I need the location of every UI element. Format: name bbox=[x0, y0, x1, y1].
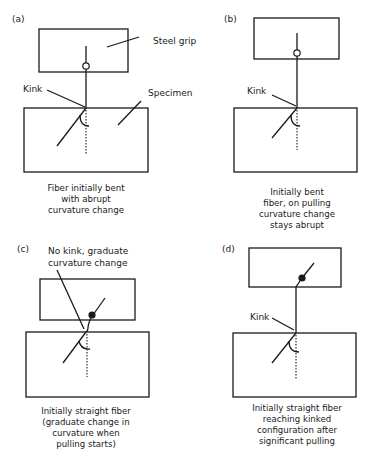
kink-label: Kink bbox=[247, 86, 267, 96]
kink-pointer bbox=[47, 90, 85, 107]
fiber-embedded-in-grip bbox=[93, 298, 105, 315]
steel-grip bbox=[40, 279, 135, 320]
svg-text:stays abrupt: stays abrupt bbox=[270, 220, 325, 230]
specimen-block bbox=[234, 108, 357, 172]
panel-tag: (c) bbox=[17, 244, 29, 254]
svg-text:curvature change: curvature change bbox=[48, 205, 124, 215]
angle-arc bbox=[79, 341, 90, 349]
panel-tag: (d) bbox=[222, 244, 235, 254]
caption: Initially straight fiber reaching kinked… bbox=[252, 403, 342, 446]
svg-text:Initially bent: Initially bent bbox=[270, 187, 324, 197]
svg-text:configuration after: configuration after bbox=[257, 425, 338, 435]
fiber-embedded-inclined bbox=[272, 333, 296, 363]
panel-tag: (a) bbox=[12, 14, 25, 24]
svg-text:curvature change: curvature change bbox=[259, 209, 335, 219]
kink-label: Kink bbox=[250, 312, 270, 322]
panel-tag: (b) bbox=[224, 14, 237, 24]
filled-grip-point bbox=[298, 274, 305, 281]
steel-grip bbox=[249, 248, 341, 287]
panel-c: (c) No kink, graduate curvature change I… bbox=[17, 244, 149, 449]
svg-text:reaching kinked: reaching kinked bbox=[263, 414, 331, 424]
svg-text:(graduate change in: (graduate change in bbox=[42, 417, 129, 427]
svg-text:with abrupt: with abrupt bbox=[61, 194, 111, 204]
fiber-pullout-diagram: (a) Kink Steel grip Specimen Fiber initi… bbox=[0, 0, 379, 467]
caption: Fiber initially bent with abrupt curvatu… bbox=[47, 183, 125, 215]
open-grip-point bbox=[294, 50, 300, 56]
angle-arc bbox=[291, 115, 300, 126]
panel-d: (d) Kink Initially straight fiber reachi… bbox=[222, 244, 356, 446]
kink-pointer bbox=[272, 95, 296, 106]
svg-text:curvature when: curvature when bbox=[52, 428, 119, 438]
no-kink-label: No kink, graduate curvature change bbox=[48, 246, 129, 268]
specimen-block bbox=[233, 333, 356, 397]
svg-text:No kink, graduate: No kink, graduate bbox=[48, 246, 129, 256]
panel-b: (b) Kink Initially bent fiber, on pullin… bbox=[224, 14, 357, 230]
svg-text:pulling starts): pulling starts) bbox=[56, 439, 116, 449]
specimen-pointer bbox=[118, 101, 141, 125]
angle-arc bbox=[289, 341, 299, 352]
svg-text:Fiber initially bent: Fiber initially bent bbox=[47, 183, 125, 193]
filled-grip-point bbox=[88, 311, 95, 318]
grip-pointer bbox=[107, 37, 139, 47]
caption: Initially bent fiber, on pulling curvatu… bbox=[259, 187, 335, 230]
svg-text:Initially straight fiber: Initially straight fiber bbox=[41, 406, 131, 416]
fiber-embedded-inclined bbox=[57, 108, 86, 146]
fiber-free-length bbox=[296, 281, 300, 333]
svg-text:Initially straight fiber: Initially straight fiber bbox=[252, 403, 342, 413]
kink-pointer bbox=[272, 318, 294, 330]
steel-grip-label: Steel grip bbox=[153, 36, 197, 46]
svg-text:curvature change: curvature change bbox=[48, 258, 128, 268]
panel-a: (a) Kink Steel grip Specimen Fiber initi… bbox=[12, 14, 197, 215]
angle-arc bbox=[80, 115, 89, 126]
svg-text:fiber, on pulling: fiber, on pulling bbox=[263, 198, 331, 208]
svg-text:significant pulling: significant pulling bbox=[259, 436, 335, 446]
kink-label: Kink bbox=[23, 84, 43, 94]
specimen-label: Specimen bbox=[148, 88, 192, 98]
open-grip-point bbox=[83, 63, 89, 69]
caption: Initially straight fiber (graduate chang… bbox=[41, 406, 131, 449]
